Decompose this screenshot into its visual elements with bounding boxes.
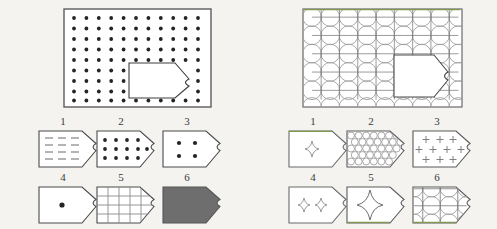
tag-outline	[289, 187, 346, 223]
cell-left-6[interactable]	[162, 186, 222, 224]
cell-right-3[interactable]	[412, 130, 472, 168]
right-circle-lattice-rectangle	[302, 8, 465, 109]
inset-tag-outline	[129, 63, 189, 98]
cell-right-4-label: 4	[302, 172, 324, 183]
inset-tag-outline	[394, 55, 448, 97]
cell-left-1-label: 1	[52, 116, 74, 127]
cell-right-2[interactable]	[346, 130, 406, 168]
cell-left-2-label: 2	[110, 116, 132, 127]
tag-outline-filled	[163, 187, 220, 223]
tag-outline	[39, 187, 96, 223]
cell-left-2[interactable]	[96, 130, 156, 168]
left-big-svg	[63, 8, 213, 109]
cell-left-4[interactable]	[38, 186, 98, 224]
cell-right-6-label: 6	[426, 172, 448, 183]
cell-left-6-label: 6	[176, 172, 198, 183]
left-dot-grid-rectangle	[63, 8, 213, 109]
cell-right-6[interactable]	[412, 186, 472, 224]
cell-left-3[interactable]	[162, 130, 222, 168]
cell-right-5-label: 5	[360, 172, 382, 183]
cell-left-5-label: 5	[110, 172, 132, 183]
tag-outline	[347, 187, 404, 223]
tag-outline	[39, 131, 96, 167]
right-big-svg	[302, 8, 465, 109]
cell-right-4[interactable]	[288, 186, 348, 224]
cell-right-2-label: 2	[360, 116, 382, 127]
cell-left-3-label: 3	[176, 116, 198, 127]
tag-outline	[163, 131, 220, 167]
cell-left-4-label: 4	[52, 172, 74, 183]
cell-left-5[interactable]	[96, 186, 156, 224]
cell-right-5[interactable]	[346, 186, 406, 224]
figure-canvas: 1 2 3	[0, 0, 497, 229]
cell-right-1[interactable]	[288, 130, 348, 168]
cell-right-1-label: 1	[302, 116, 324, 127]
cell-right-3-label: 3	[426, 116, 448, 127]
cell-left-1[interactable]	[38, 130, 98, 168]
center-dot	[59, 202, 64, 207]
